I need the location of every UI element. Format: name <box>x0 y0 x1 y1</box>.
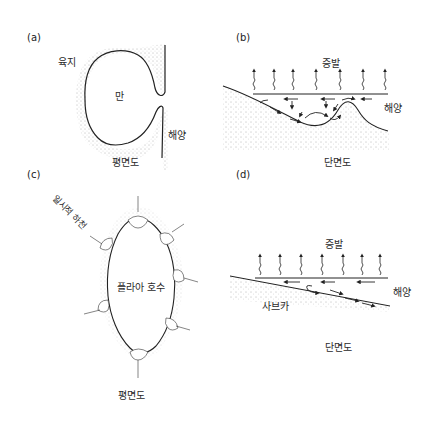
panel-d-letter: (d) <box>236 170 250 180</box>
panel-b-letter: (b) <box>236 33 250 43</box>
evaporation-label-b: 증발 <box>322 59 340 69</box>
sabkha-stipple <box>230 276 390 312</box>
cross-section-caption-b: 단면도 <box>324 158 351 168</box>
sabkha-label: 사브카 <box>262 302 289 312</box>
land-label: 육지 <box>58 58 76 68</box>
land-stipple <box>76 44 168 170</box>
ocean-label-d: 해양 <box>393 288 411 298</box>
panel-a-bay-plan <box>76 44 168 170</box>
evaporation-arrows-d <box>259 255 381 275</box>
evaporation-label-d: 증발 <box>325 240 343 250</box>
ocean-label-a: 해양 <box>168 131 186 141</box>
bay-label: 만 <box>115 92 124 102</box>
plan-view-caption-a: 평면도 <box>112 158 139 168</box>
panel-d-sabkha-section <box>230 255 390 312</box>
playa-lake-label: 플라아 호수 <box>117 283 165 293</box>
plan-view-caption-c: 평면도 <box>118 391 145 401</box>
panel-b-bay-section <box>223 70 390 150</box>
panel-c-letter: (c) <box>27 170 40 180</box>
cross-section-caption-d: 단면도 <box>325 343 352 353</box>
panel-a-letter: (a) <box>27 33 41 43</box>
ocean-label-b: 해양 <box>384 104 402 114</box>
evaporation-arrows <box>253 70 386 90</box>
